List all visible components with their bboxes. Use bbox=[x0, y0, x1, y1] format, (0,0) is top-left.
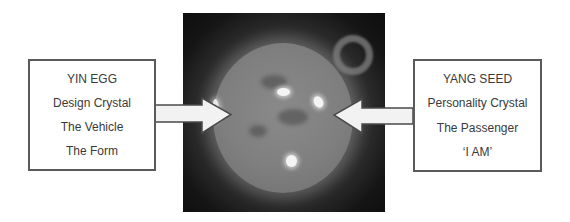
box-line: Design Crystal bbox=[53, 96, 131, 110]
arrow-left-icon bbox=[333, 98, 415, 136]
box-title: YANG SEED bbox=[443, 72, 512, 86]
box-line: The Form bbox=[66, 144, 118, 158]
bright-spot bbox=[286, 155, 297, 167]
bright-spot bbox=[277, 88, 290, 96]
solar-prominence bbox=[333, 35, 373, 75]
dark-region bbox=[249, 125, 267, 137]
arrow-right-icon bbox=[155, 97, 235, 137]
box-line: The Passenger bbox=[437, 121, 518, 135]
box-line: ‘I AM’ bbox=[463, 145, 492, 159]
dark-region bbox=[261, 75, 287, 89]
box-title: YIN EGG bbox=[67, 72, 117, 86]
yin-egg-box: YIN EGG Design Crystal The Vehicle The F… bbox=[28, 59, 156, 171]
yang-seed-box: YANG SEED Personality Crystal The Passen… bbox=[413, 59, 542, 172]
dark-region bbox=[278, 109, 308, 125]
box-line: The Vehicle bbox=[61, 120, 124, 134]
box-line: Personality Crystal bbox=[427, 96, 527, 110]
